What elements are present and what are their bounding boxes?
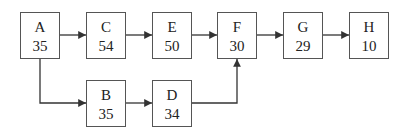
- node-f-label: F: [218, 20, 256, 35]
- node-e: E 50: [152, 12, 192, 59]
- edges-layer: [0, 0, 407, 136]
- node-h: H 10: [349, 12, 389, 59]
- node-d: D 34: [152, 80, 192, 127]
- node-d-value: 34: [153, 107, 191, 122]
- node-h-value: 10: [350, 39, 388, 54]
- node-c-value: 54: [87, 39, 125, 54]
- node-e-label: E: [153, 20, 191, 35]
- node-h-label: H: [350, 20, 388, 35]
- node-b: B 35: [86, 80, 126, 127]
- node-c: C 54: [86, 12, 126, 59]
- node-d-label: D: [153, 88, 191, 103]
- node-b-label: B: [87, 88, 125, 103]
- node-f: F 30: [217, 12, 257, 59]
- node-f-value: 30: [218, 39, 256, 54]
- edge-d-f: [192, 59, 237, 103]
- node-a-label: A: [21, 20, 59, 35]
- edge-a-b: [40, 59, 86, 103]
- node-g: G 29: [283, 12, 323, 59]
- node-b-value: 35: [87, 107, 125, 122]
- node-g-value: 29: [284, 39, 322, 54]
- node-a: A 35: [20, 12, 60, 59]
- node-e-value: 50: [153, 39, 191, 54]
- node-a-value: 35: [21, 39, 59, 54]
- node-c-label: C: [87, 20, 125, 35]
- node-g-label: G: [284, 20, 322, 35]
